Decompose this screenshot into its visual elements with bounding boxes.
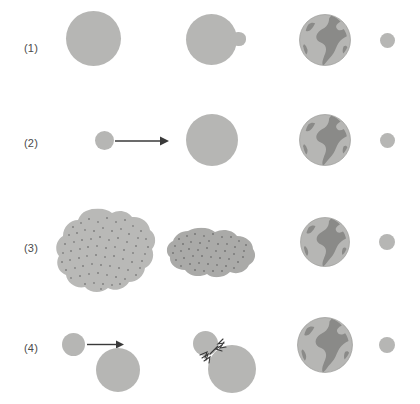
incoming-body-sphere [95, 131, 114, 150]
earth-globe [297, 317, 353, 373]
stage-impactor-colliding [0, 304, 420, 404]
earth-globe [299, 14, 351, 66]
stage-proto-earth-with-bulge [0, 0, 420, 100]
moon-sphere [379, 337, 395, 353]
large-dust-cloud [53, 205, 158, 300]
diagram-row-giant-impact: (4) [0, 304, 420, 404]
earth-globe [299, 114, 351, 166]
diagram-row-co-accretion: (3) [0, 200, 420, 304]
moon-sphere [380, 133, 395, 148]
moon-sphere [380, 33, 395, 48]
diagram-row-capture: (2) [0, 100, 420, 200]
proto-earth-sphere [186, 114, 238, 166]
diagram-row-fission: (1) [0, 0, 420, 100]
moon-sphere [379, 234, 395, 250]
earth-globe [300, 217, 350, 267]
condensing-dust-cloud [162, 224, 260, 282]
lunar-origin-theories-diagram: (1) (2) [0, 0, 420, 404]
impact-spark-lines-icon [196, 330, 236, 370]
motion-arrow-icon [114, 134, 170, 148]
row-label-3: (3) [24, 242, 38, 254]
tidal-bulge [230, 32, 246, 46]
